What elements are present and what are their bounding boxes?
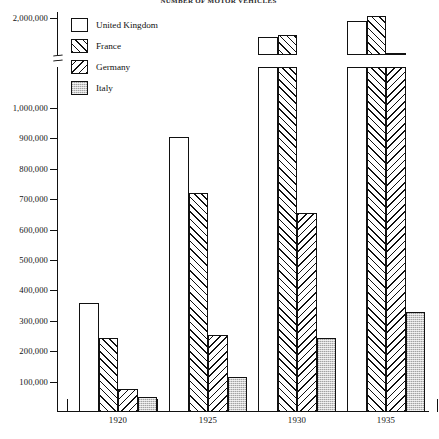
legend-label: United Kingdom	[96, 18, 158, 32]
y-tick	[50, 18, 57, 19]
y-tick	[50, 382, 57, 383]
bar	[367, 16, 387, 412]
legend-label: France	[96, 39, 121, 53]
y-tick-label: 900,000	[19, 133, 48, 143]
bar-axis-break	[278, 54, 298, 68]
x-axis-label: 1935	[333, 415, 439, 425]
y-tick-label: 1,000,000	[13, 103, 48, 113]
y-tick	[50, 260, 57, 261]
y-tick-label: 700,000	[19, 194, 48, 204]
y-tick	[50, 351, 57, 352]
bar	[278, 35, 298, 412]
legend-item: United Kingdom	[71, 16, 191, 37]
bar	[79, 303, 99, 412]
legend: United KingdomFranceGermanyItaly	[71, 16, 191, 100]
bar	[228, 377, 248, 412]
group-separator	[157, 399, 158, 412]
y-tick	[50, 230, 57, 231]
y-tick-label: 500,000	[19, 255, 48, 265]
y-tick	[50, 321, 57, 322]
y-tick	[50, 169, 57, 170]
legend-label: Italy	[96, 81, 113, 95]
group-separator	[67, 399, 68, 412]
y-tick	[50, 199, 57, 200]
bar	[138, 397, 158, 412]
legend-item: Germany	[71, 58, 191, 79]
y-tick-label: 400,000	[19, 285, 48, 295]
bar	[317, 338, 337, 413]
bar	[386, 53, 406, 412]
y-axis-line	[57, 12, 58, 412]
bar	[99, 338, 119, 413]
legend-item: France	[71, 37, 191, 58]
bar-axis-break	[258, 54, 278, 68]
legend-label: Germany	[96, 60, 130, 74]
y-tick-label: 600,000	[19, 225, 48, 235]
legend-swatch-icon	[71, 18, 88, 32]
bar	[347, 21, 367, 413]
bar	[118, 389, 138, 412]
y-tick	[50, 108, 57, 109]
bar	[258, 37, 278, 412]
bar	[406, 312, 426, 412]
bar	[208, 335, 228, 413]
bar	[189, 193, 209, 412]
legend-swatch-icon	[71, 60, 88, 74]
legend-item: Italy	[71, 79, 191, 100]
bar	[169, 137, 189, 412]
y-tick	[50, 138, 57, 139]
y-tick-label: 300,000	[19, 316, 48, 326]
bar-axis-break	[367, 54, 387, 68]
bar-axis-break	[386, 54, 406, 68]
y-tick-label: 800,000	[19, 164, 48, 174]
axis-break-icon	[53, 54, 63, 65]
bar	[297, 213, 317, 412]
y-tick	[50, 290, 57, 291]
chart-title: NUMBER OF MOTOR VEHICLES	[0, 0, 437, 5]
bar-axis-break	[347, 54, 367, 68]
y-tick-label: 100,000	[19, 377, 48, 387]
legend-swatch-icon	[71, 39, 88, 53]
group-separator	[437, 399, 438, 412]
y-tick-label: 2,000,000	[13, 13, 48, 23]
y-tick-label: 200,000	[19, 346, 48, 356]
legend-swatch-icon	[71, 81, 88, 95]
